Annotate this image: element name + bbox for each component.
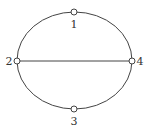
node-3 (71, 106, 77, 112)
node-2 (14, 58, 20, 64)
node-label-2: 2 (6, 55, 13, 68)
graph-diagram: 1 2 3 4 (0, 0, 149, 129)
node-1 (71, 9, 77, 15)
node-label-3: 3 (71, 115, 78, 128)
node-label-1: 1 (71, 18, 78, 31)
node-4 (129, 58, 135, 64)
node-label-4: 4 (137, 55, 144, 68)
